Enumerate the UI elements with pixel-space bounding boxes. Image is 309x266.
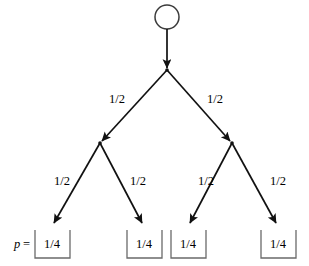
root-node-circle bbox=[155, 5, 179, 29]
p-equals-label: = bbox=[23, 237, 30, 251]
leaf-box-1-value: 1/4 bbox=[44, 237, 61, 251]
edge-label-right-leaf4: 1/2 bbox=[270, 174, 286, 188]
edge-label-root-right: 1/2 bbox=[207, 92, 223, 106]
edge-label-left-leaf1: 1/2 bbox=[54, 174, 70, 188]
edge-label-right-leaf3: 1/2 bbox=[198, 174, 214, 188]
tree-canvas: 1/2 1/2 1/2 1/2 1/2 1/2 p = 1/4 1/4 1/4 … bbox=[0, 0, 309, 266]
edge-label-left-leaf2: 1/2 bbox=[130, 174, 146, 188]
leaf-box-3-value: 1/4 bbox=[180, 237, 197, 251]
p-symbol-label: p bbox=[13, 237, 20, 251]
leaf-box-4-value: 1/4 bbox=[270, 237, 287, 251]
leaf-box-2-value: 1/4 bbox=[136, 237, 153, 251]
edge-label-root-left: 1/2 bbox=[109, 92, 125, 106]
probability-tree-diagram: 1/2 1/2 1/2 1/2 1/2 1/2 p = 1/4 1/4 1/4 … bbox=[0, 0, 309, 266]
